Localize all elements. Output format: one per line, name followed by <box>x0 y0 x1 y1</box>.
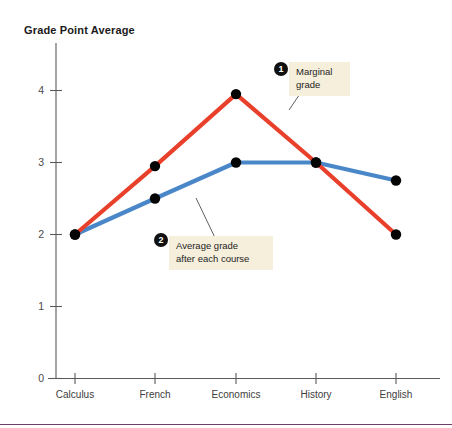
data-point-marker <box>231 89 241 99</box>
data-point-marker <box>150 161 160 171</box>
data-point-marker <box>231 157 241 167</box>
y-tick-label-2: 2 <box>38 228 44 240</box>
data-point-marker <box>311 157 321 167</box>
data-point-marker <box>391 175 401 185</box>
x-tick-label-economics: Economics <box>212 389 261 400</box>
y-tick-label-3: 3 <box>38 156 44 168</box>
callout-badge-1: 1 <box>274 62 288 76</box>
data-point-marker <box>70 229 80 239</box>
x-tick-label-history: History <box>300 389 331 400</box>
data-point-marker <box>391 229 401 239</box>
callout-marginal-grade: Marginal grade <box>289 62 350 96</box>
x-axis-tick-labels: Calculus French Economics History Englis… <box>56 389 413 400</box>
x-tick-label-french: French <box>139 389 170 400</box>
x-tick-label-english: English <box>380 389 413 400</box>
data-point-marker <box>150 193 160 203</box>
series-line-average-grade <box>75 163 396 235</box>
callout-average-grade: Average grade after each course <box>169 236 273 270</box>
footer-rule <box>0 424 452 425</box>
line-chart-plot: 0 1 2 3 4 Calculus French Economics Hist… <box>0 0 452 428</box>
chart-figure: Grade Point Average 0 1 2 3 4 <box>0 0 452 428</box>
y-axis-tick-labels: 0 1 2 3 4 <box>38 84 44 384</box>
y-tick-label-0: 0 <box>38 372 44 384</box>
y-tick-label-1: 1 <box>38 300 44 312</box>
y-tick-label-4: 4 <box>38 84 44 96</box>
x-tick-label-calculus: Calculus <box>56 389 94 400</box>
callout-badge-2: 2 <box>154 233 168 247</box>
